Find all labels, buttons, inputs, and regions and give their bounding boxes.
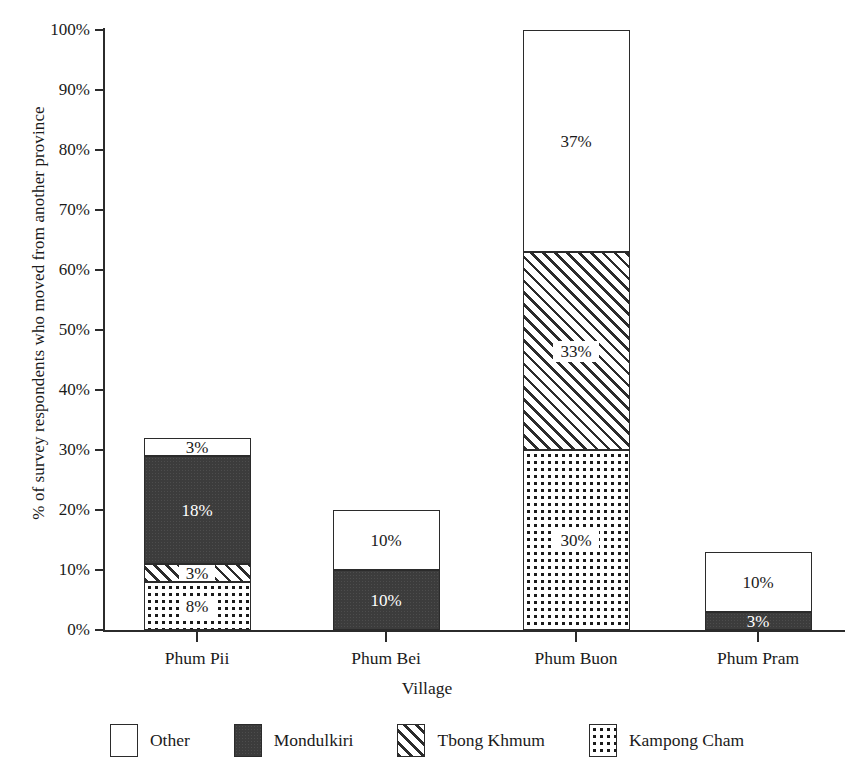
- y-axis-tick-mark: [95, 149, 105, 151]
- bar-segment-value-label: 30%: [553, 530, 598, 551]
- x-axis-title: Village: [0, 678, 854, 699]
- bar-segment-value-label: 10%: [735, 572, 780, 593]
- y-axis-tick-mark: [95, 449, 105, 451]
- y-axis-tick-label: 20%: [30, 501, 90, 518]
- x-axis-tick-label-phum-pii: Phum Pii: [117, 648, 277, 669]
- bar-segment-value-label: 8%: [179, 596, 216, 617]
- bar-segment-value-label: 3%: [179, 438, 216, 456]
- legend-item-label: Tbong Khmum: [437, 730, 544, 751]
- bar-segment: 18%: [144, 456, 251, 564]
- legend-swatch-icon: [397, 724, 425, 757]
- legend-item-other[interactable]: Other: [110, 724, 190, 757]
- bar-segment: 3%: [144, 564, 251, 582]
- bar-segment: 37%: [523, 30, 630, 252]
- legend-swatch-icon: [110, 724, 138, 757]
- y-axis-tick-mark: [95, 89, 105, 91]
- y-axis-tick-mark: [95, 269, 105, 271]
- legend-swatch-icon: [589, 724, 617, 757]
- x-axis-tick-mark: [196, 631, 198, 642]
- y-axis-title: % of survey respondents who moved from a…: [29, 13, 55, 613]
- y-axis-tick-label: 10%: [30, 561, 90, 578]
- bar-segment-value-label: 18%: [174, 500, 219, 521]
- chart-legend: OtherMondulkiriTbong KhmumKampong Cham: [0, 714, 854, 766]
- x-axis-tick-label-phum-bei: Phum Bei: [306, 648, 466, 669]
- y-axis-tick-label: 60%: [30, 261, 90, 278]
- y-axis-tick-label: 90%: [30, 81, 90, 98]
- legend-item-label: Mondulkiri: [274, 730, 354, 751]
- y-axis-tick-mark: [95, 569, 105, 571]
- y-axis-tick-label: 0%: [30, 621, 90, 638]
- y-axis-tick-mark: [95, 209, 105, 211]
- bar-segment: 10%: [333, 510, 440, 570]
- legend-swatch-icon: [234, 724, 262, 757]
- y-axis-tick-label: 80%: [30, 141, 90, 158]
- bar-segment: 30%: [523, 450, 630, 630]
- y-axis-tick-label: 40%: [30, 381, 90, 398]
- bar-segment: 3%: [144, 438, 251, 456]
- y-axis-tick-mark: [95, 509, 105, 511]
- bar-segment-value-label: 37%: [553, 131, 598, 152]
- y-axis-tick-mark: [95, 29, 105, 31]
- y-axis-tick-mark: [95, 389, 105, 391]
- bar-segment: 33%: [523, 252, 630, 450]
- bar-segment: 8%: [144, 582, 251, 630]
- x-axis-line: [103, 630, 845, 632]
- bar-segment-value-label: 33%: [553, 341, 598, 362]
- x-axis-tick-mark: [385, 631, 387, 642]
- legend-item-label: Other: [150, 730, 190, 751]
- bar-segment-value-label: 10%: [363, 530, 408, 551]
- bar-segment-value-label: 3%: [740, 612, 777, 630]
- legend-item-mondulkiri[interactable]: Mondulkiri: [234, 724, 354, 757]
- bar-segment-value-label: 10%: [363, 590, 408, 611]
- y-axis-tick-label: 30%: [30, 441, 90, 458]
- bar-segment: 3%: [705, 612, 812, 630]
- x-axis-tick-mark: [757, 631, 759, 642]
- legend-item-label: Kampong Cham: [629, 730, 744, 751]
- x-axis-tick-label-phum-buon: Phum Buon: [496, 648, 656, 669]
- bar-segment: 10%: [705, 552, 812, 612]
- bar-segment-value-label: 3%: [179, 564, 216, 582]
- legend-item-tbong-khmum[interactable]: Tbong Khmum: [397, 724, 544, 757]
- x-axis-tick-mark: [575, 631, 577, 642]
- legend-item-kampong-cham[interactable]: Kampong Cham: [589, 724, 744, 757]
- y-axis-tick-mark: [95, 629, 105, 631]
- y-axis-tick-label: 50%: [30, 321, 90, 338]
- y-axis-tick-label: 70%: [30, 201, 90, 218]
- y-axis-tick-mark: [95, 329, 105, 331]
- y-axis-tick-label: 100%: [30, 21, 90, 38]
- stacked-bar-chart: % of survey respondents who moved from a…: [0, 0, 854, 777]
- bar-segment: 10%: [333, 570, 440, 630]
- x-axis-tick-label-phum-pram: Phum Pram: [678, 648, 838, 669]
